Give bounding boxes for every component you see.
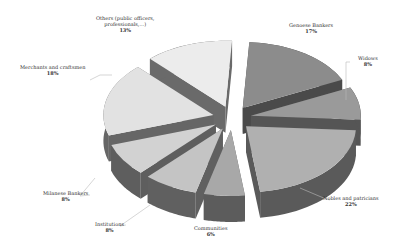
label-nobles: Nobles and patricians 22% [323, 195, 379, 207]
label-widows: Widows 8% [358, 55, 378, 67]
label-communities: Communities 6% [194, 225, 228, 237]
leader-line [120, 205, 150, 226]
label-genoese-bankers: Genoese Bankers 17% [289, 22, 333, 34]
label-merchants: Merchants and craftsmen 18% [20, 64, 85, 76]
label-milanese-bankers: Milanese Bankers 8% [43, 190, 88, 202]
leader-line [90, 75, 112, 80]
label-institutions: Institutions 8% [95, 221, 124, 233]
pie-chart [0, 0, 397, 251]
label-others: Others (public officers, professionals,.… [96, 15, 154, 33]
